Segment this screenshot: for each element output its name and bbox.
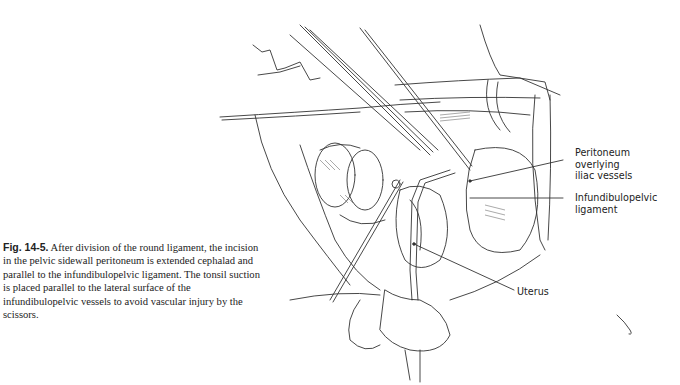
caption-text: After division of the round ligament, th… — [3, 242, 260, 320]
label-peritoneum: Peritoneum overlying iliac vessels — [575, 147, 632, 182]
label-line: Infundibulopelvic — [575, 192, 657, 204]
label-line: iliac vessels — [575, 170, 632, 182]
figure: Peritoneum overlying iliac vessels Infun… — [0, 0, 680, 385]
figure-caption: Fig. 14-5. After division of the round l… — [3, 241, 265, 321]
label-line: overlying — [575, 159, 632, 171]
label-line: Uterus — [517, 286, 549, 298]
figure-number: Fig. 14-5. — [3, 241, 49, 253]
label-line: ligament — [575, 204, 657, 216]
label-line: Peritoneum — [575, 147, 632, 159]
label-infundibulopelvic-ligament: Infundibulopelvic ligament — [575, 192, 657, 215]
label-uterus: Uterus — [517, 286, 549, 298]
